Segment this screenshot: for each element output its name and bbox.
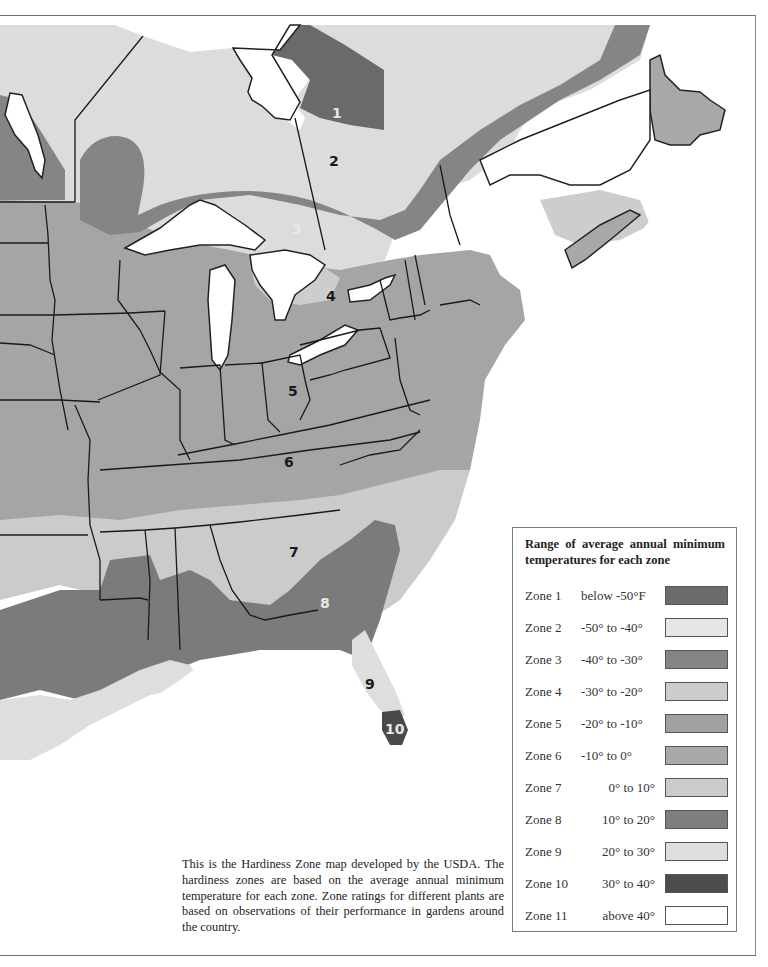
legend-zone-range: -40° to -30° [581, 652, 667, 668]
zone-label-9: 9 [365, 677, 375, 691]
legend-zone-range: 10° to 20° [573, 812, 655, 828]
page: 12345678910 This is the Hardiness Zone m… [0, 0, 768, 967]
legend-zone-range: 0° to 10° [573, 780, 655, 796]
legend-zone-name: Zone 5 [525, 716, 561, 732]
legend-color-swatch [665, 682, 728, 701]
legend-color-swatch [665, 842, 728, 861]
legend-color-swatch [665, 874, 728, 893]
legend-zone-name: Zone 2 [525, 620, 561, 636]
zone-label-7: 7 [289, 545, 299, 559]
legend-color-swatch [665, 906, 728, 925]
legend-color-swatch [665, 778, 728, 797]
zone-label-3: 3 [292, 222, 302, 236]
zone-label-6: 6 [284, 455, 294, 469]
zone-label-4: 4 [326, 289, 336, 303]
legend-zone-name: Zone 4 [525, 684, 561, 700]
legend-zone-range: below -50°F [581, 588, 667, 604]
legend-zone-name: Zone 8 [525, 812, 561, 828]
legend-item-zone-3: Zone 3-40° to -30° [525, 650, 730, 670]
legend-color-swatch [665, 618, 728, 637]
zone-label-1: 1 [332, 106, 342, 120]
legend-color-swatch [665, 810, 728, 829]
legend-item-zone-8: Zone 810° to 20° [525, 810, 730, 830]
legend-zone-range: -10° to 0° [581, 748, 667, 764]
legend-zone-range: -50° to -40° [581, 620, 667, 636]
legend-item-zone-5: Zone 5-20° to -10° [525, 714, 730, 734]
legend-title: Range of average annual minimum temperat… [525, 536, 725, 568]
legend-item-zone-9: Zone 920° to 30° [525, 842, 730, 862]
legend-color-swatch [665, 714, 728, 733]
right-rule [755, 15, 756, 955]
legend-zone-range: above 40° [573, 908, 655, 924]
legend-zone-name: Zone 10 [525, 876, 568, 892]
legend-zone-name: Zone 3 [525, 652, 561, 668]
legend-color-swatch [665, 586, 728, 605]
legend-zone-name: Zone 9 [525, 844, 561, 860]
zone-label-2: 2 [329, 154, 339, 168]
legend-zone-range: 20° to 30° [573, 844, 655, 860]
map-caption: This is the Hardiness Zone map developed… [182, 857, 504, 935]
legend-item-zone-11: Zone 11above 40° [525, 906, 730, 926]
zone-label-5: 5 [288, 384, 298, 398]
top-rule [0, 15, 756, 16]
legend-item-zone-7: Zone 70° to 10° [525, 778, 730, 798]
legend-item-zone-1: Zone 1below -50°F [525, 586, 730, 606]
legend-zone-range: 30° to 40° [573, 876, 655, 892]
legend-zone-name: Zone 6 [525, 748, 561, 764]
legend-zone-range: -20° to -10° [581, 716, 667, 732]
newfoundland [650, 55, 725, 145]
legend-color-swatch [665, 746, 728, 765]
legend-color-swatch [665, 650, 728, 669]
legend-zone-name: Zone 11 [525, 908, 567, 924]
zone-label-10: 10 [385, 722, 404, 736]
legend: Range of average annual minimum temperat… [512, 527, 737, 932]
bottom-rule [0, 955, 756, 956]
legend-item-zone-4: Zone 4-30° to -20° [525, 682, 730, 702]
legend-zone-name: Zone 1 [525, 588, 561, 604]
legend-zone-range: -30° to -20° [581, 684, 667, 700]
legend-zone-name: Zone 7 [525, 780, 561, 796]
legend-item-zone-6: Zone 6-10° to 0° [525, 746, 730, 766]
legend-item-zone-2: Zone 2-50° to -40° [525, 618, 730, 638]
zone-label-8: 8 [320, 596, 330, 610]
legend-item-zone-10: Zone 1030° to 40° [525, 874, 730, 894]
